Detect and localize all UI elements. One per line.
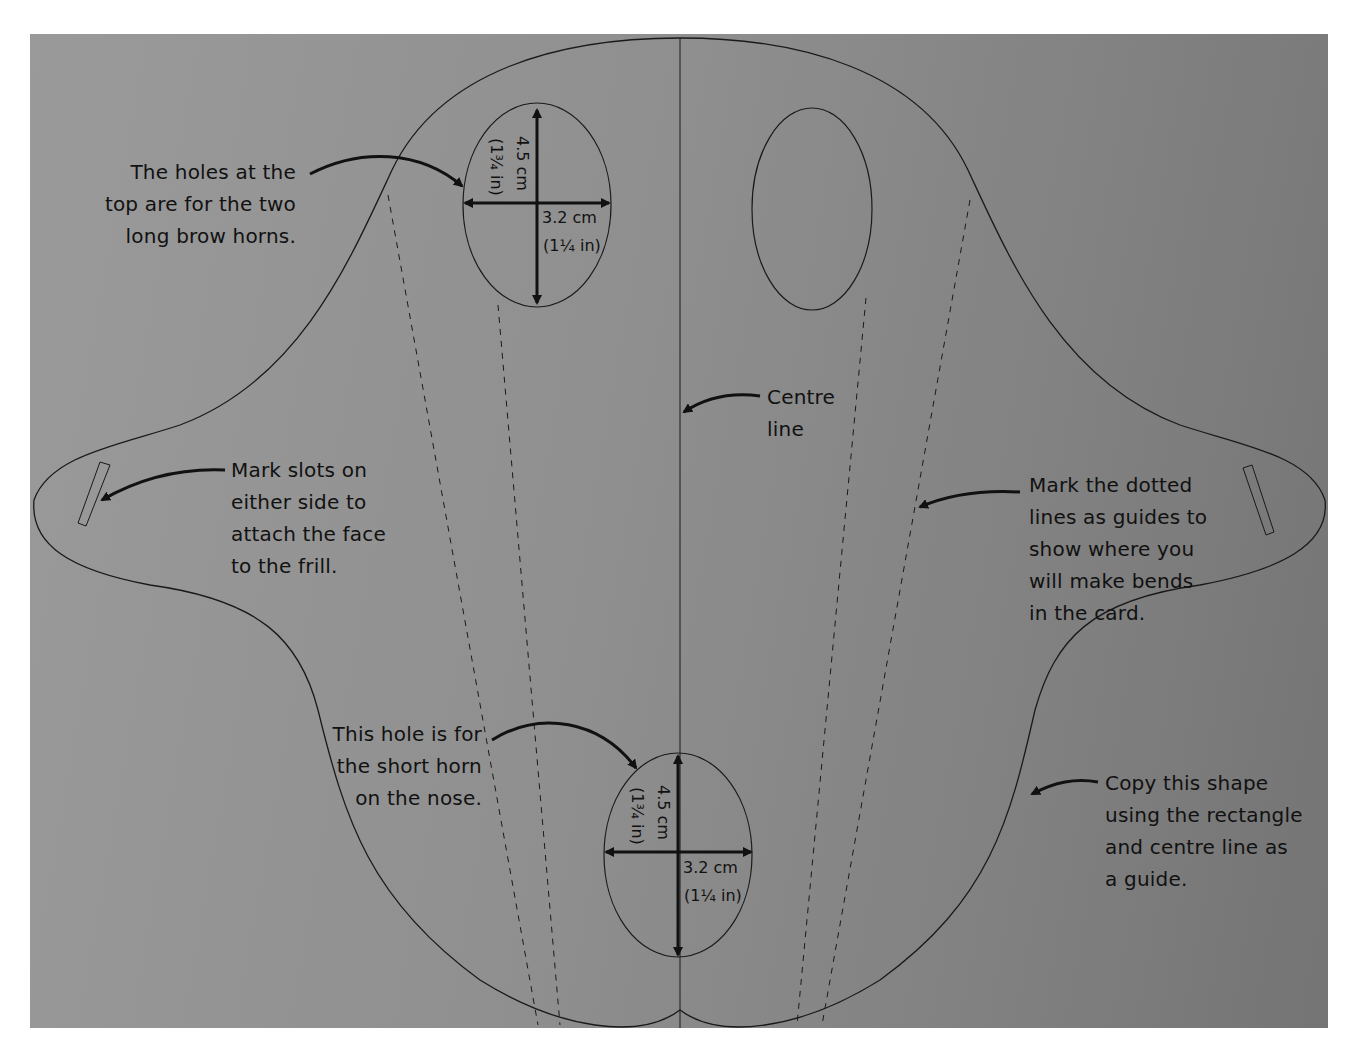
nose-hole-height-cm: 4.5 cm [651,785,675,840]
left-slot [78,462,110,526]
slots-note: Mark slots on either side to attach the … [231,454,431,582]
centre-line-note: Centre line [767,381,857,445]
copy-shape-note: Copy this shape using the rectangle and … [1105,767,1345,895]
nose-horn-note: This hole is for the short horn on the n… [290,718,482,814]
top-hole-height-cm: 4.5 cm [510,136,534,191]
dotted-lines-note: Mark the dotted lines as guides to show … [1029,469,1249,629]
nose-hole-width-in: (1¼ in) [684,884,742,908]
top-hole-width-in: (1¼ in) [543,234,601,258]
top-hole-height-in: (1¾ in) [484,138,508,196]
nose-hole-width-cm: 3.2 cm [683,856,738,880]
nose-hole-height-in: (1¾ in) [625,787,649,845]
top-hole-width-cm: 3.2 cm [542,206,597,230]
right-brow-hole [752,108,872,310]
brow-horns-note: The holes at the top are for the two lon… [70,156,296,252]
